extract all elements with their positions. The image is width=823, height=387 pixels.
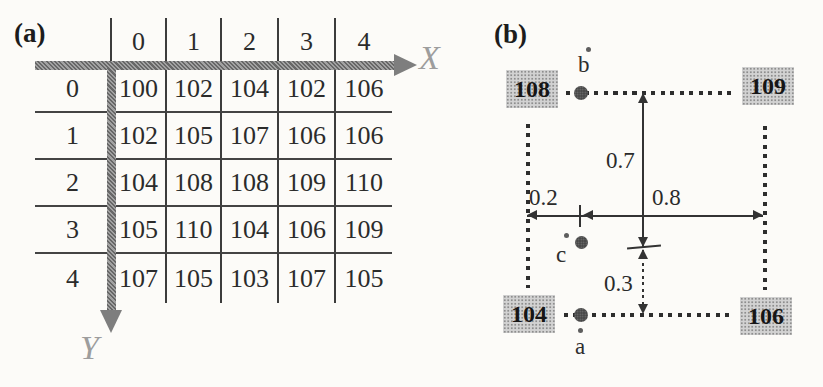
pixel-value-cell: 104 [110,158,165,205]
x-axis-arrowhead-icon [394,54,417,76]
point-c-label: c [556,243,566,266]
x-axis-label: X [419,39,440,77]
pixel-value-cell: 102 [165,65,220,111]
dimension-line-horizontal [527,215,763,217]
arrowhead-left-icon [583,210,593,220]
col-header: 0 [110,18,165,65]
arrowhead-up-icon [638,93,648,103]
pixel-value-cell: 106 [277,111,334,158]
pixel-value-cell: 106 [277,205,334,252]
corner-value-bottom-right: 106 [740,297,792,335]
y-axis-label: Y [80,329,99,367]
arrowhead-right-icon [753,210,763,220]
pixel-value-cell: 109 [334,205,392,252]
figure: (a) 0 1 2 3 4 0 100 102 104 102 106 1 10… [0,0,823,387]
pixel-value-cell: 103 [220,252,277,303]
col-header: 2 [220,18,277,65]
pixel-value-cell: 104 [220,65,277,111]
point-a-label: a [575,335,585,358]
pixel-value-cell: 110 [165,205,220,252]
dotted-line-top [566,91,734,95]
pixel-value-cell: 110 [334,158,392,205]
corner-value-top-right: 109 [742,67,794,105]
row-label: 0 [35,65,110,111]
arrowhead-down-icon [638,304,648,314]
panel-b-label: (b) [494,19,527,50]
table-corner-cell [35,18,110,65]
point-c-dot [575,236,588,249]
dotted-line-bottom [564,313,734,317]
pixel-value-cell: 100 [110,65,165,111]
col-header: 1 [165,18,220,65]
col-header: 3 [277,18,334,65]
row-label: 4 [35,252,110,303]
pixel-value-cell: 107 [277,252,334,303]
distance-label-right-horizontal: 0.8 [652,186,681,209]
dotted-line-right [763,126,767,290]
pixel-value-cell: 108 [165,158,220,205]
point-b-label: b [578,53,590,76]
corner-value-top-left: 108 [506,70,558,108]
row-label: 1 [35,111,110,158]
point-c-marker-dot [564,233,569,238]
pixel-value-cell: 102 [110,111,165,158]
pixel-value-cell: 105 [165,252,220,303]
pixel-value-cell: 109 [277,158,334,205]
pixel-value-cell: 105 [165,111,220,158]
point-a-dot [574,308,588,322]
pixel-value-cell: 104 [220,205,277,252]
row-label: 2 [35,158,110,205]
pixel-value-cell: 107 [110,252,165,303]
dimension-tick-vertical [579,205,581,227]
y-axis-arrow [107,61,116,312]
row-label: 3 [35,205,110,252]
distance-label-upper-vertical: 0.7 [606,149,635,172]
point-b-dot [574,86,588,100]
pixel-value-cell: 108 [220,158,277,205]
distance-label-left-horizontal: 0.2 [529,186,558,209]
pixel-value-cell: 102 [277,65,334,111]
arrowhead-left-icon [527,210,537,220]
pixel-value-cell: 107 [220,111,277,158]
corner-value-bottom-left: 104 [503,295,555,333]
distance-label-lower-vertical: 0.3 [604,272,633,295]
arrowhead-up-icon [638,249,648,259]
col-header: 4 [334,18,392,65]
pixel-value-cell: 105 [110,205,165,252]
pixel-value-cell: 106 [334,65,392,111]
dimension-line-vertical-upper [642,93,644,247]
x-axis-arrow [35,61,395,70]
point-a-marker-dot [578,328,583,333]
pixel-value-cell: 106 [334,111,392,158]
pixel-value-cell: 105 [334,252,392,303]
y-axis-arrowhead-icon [100,310,122,333]
